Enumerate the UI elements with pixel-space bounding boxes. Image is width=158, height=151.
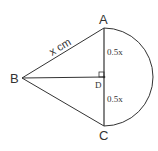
segment-AD-label: 0.5x — [107, 47, 123, 57]
point-D-dot — [103, 76, 106, 79]
point-C-label: C — [99, 128, 108, 143]
semicircle-arc — [104, 28, 153, 126]
point-D-label: D — [95, 80, 102, 90]
segment-BA — [22, 28, 104, 78]
point-A-label: A — [99, 12, 108, 27]
geometry-diagram: A B C D x cm 0.5x 0.5x — [0, 0, 158, 151]
segment-BD — [22, 77, 104, 78]
segment-BC — [22, 78, 104, 126]
segment-DC-label: 0.5x — [107, 94, 123, 104]
point-B-label: B — [10, 71, 19, 86]
